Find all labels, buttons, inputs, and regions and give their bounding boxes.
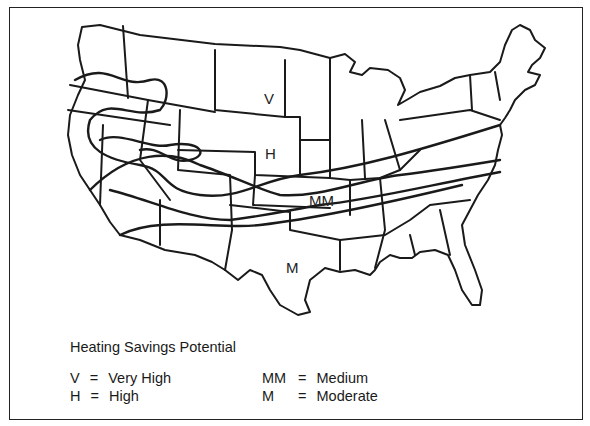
legend-item-high: H = High: [70, 388, 139, 404]
legend-title: Heating Savings Potential: [70, 339, 236, 355]
zone-label-m: M: [286, 259, 299, 276]
legend-item-moderate: M = Moderate: [262, 388, 378, 404]
zone-label-mm: MM: [309, 192, 334, 209]
zone-label-h: H: [265, 145, 276, 162]
us-map: [0, 0, 590, 426]
zone-label-v: V: [264, 90, 274, 107]
us-outline: [68, 25, 545, 315]
legend-item-medium: MM = Medium: [262, 370, 368, 386]
legend-item-very-high: V = Very High: [70, 370, 171, 386]
